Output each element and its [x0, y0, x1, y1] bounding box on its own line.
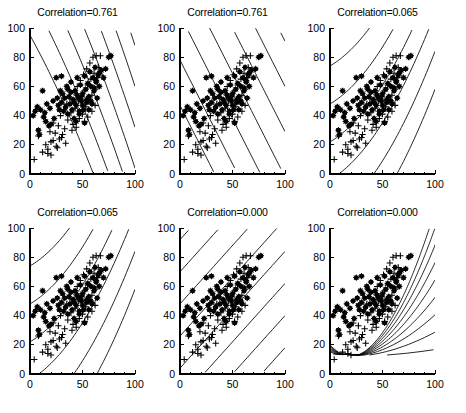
- panel-plot: 020406080100050100: [300, 20, 455, 200]
- panel-plot: 020406080100050100: [300, 220, 455, 400]
- x-tick-label: 50: [377, 378, 389, 390]
- y-tick-label: 20: [163, 338, 175, 350]
- y-tick-label: 60: [13, 80, 25, 92]
- scatter-panel: Correlation=0.065020406080100050100: [300, 0, 455, 200]
- x-tick-label: 0: [327, 378, 333, 390]
- x-tick-label: 50: [227, 178, 239, 190]
- y-tick-label: 100: [7, 222, 25, 234]
- y-tick-label: 20: [313, 338, 325, 350]
- figure-canvas: Correlation=0.761020406080100050100Corre…: [0, 0, 466, 413]
- y-tick-label: 40: [163, 109, 175, 121]
- y-tick-label: 40: [13, 309, 25, 321]
- y-tick-label: 20: [313, 138, 325, 150]
- y-tick-label: 0: [169, 168, 175, 180]
- scatter-panel: Correlation=0.065020406080100050100: [0, 200, 155, 400]
- x-tick-label: 50: [77, 178, 89, 190]
- x-tick-label: 50: [227, 378, 239, 390]
- panel-title: Correlation=0.065: [300, 6, 455, 18]
- x-tick-label: 100: [126, 178, 144, 190]
- data-points: [180, 253, 264, 363]
- x-tick-label: 0: [177, 378, 183, 390]
- data-points: [180, 53, 264, 163]
- panel-plot: 020406080100050100: [150, 20, 305, 200]
- panel-title: Correlation=0.761: [150, 6, 305, 18]
- y-tick-label: 80: [163, 51, 175, 63]
- x-tick-label: 0: [27, 378, 33, 390]
- x-tick-label: 50: [77, 378, 89, 390]
- y-tick-label: 40: [313, 109, 325, 121]
- y-tick-label: 20: [13, 138, 25, 150]
- panel-title: Correlation=0.000: [300, 206, 455, 218]
- y-tick-label: 0: [19, 368, 25, 380]
- y-tick-label: 100: [157, 222, 175, 234]
- y-tick-label: 20: [13, 338, 25, 350]
- x-tick-label: 100: [426, 178, 444, 190]
- y-tick-label: 40: [13, 109, 25, 121]
- y-tick-label: 100: [157, 22, 175, 34]
- y-tick-label: 0: [319, 168, 325, 180]
- y-tick-label: 0: [19, 168, 25, 180]
- data-points: [330, 53, 414, 163]
- scatter-panel: Correlation=0.000020406080100050100: [300, 200, 455, 400]
- y-tick-label: 0: [169, 368, 175, 380]
- x-tick-label: 100: [126, 378, 144, 390]
- y-tick-label: 80: [13, 51, 25, 63]
- panel-plot: 020406080100050100: [0, 220, 155, 400]
- data-points: [30, 53, 114, 163]
- y-tick-label: 20: [163, 138, 175, 150]
- y-tick-label: 60: [13, 280, 25, 292]
- y-tick-label: 80: [313, 251, 325, 263]
- scatter-panel: Correlation=0.000020406080100050100: [150, 200, 305, 400]
- scatter-panel: Correlation=0.761020406080100050100: [0, 0, 155, 200]
- x-tick-label: 0: [177, 178, 183, 190]
- x-tick-label: 0: [27, 178, 33, 190]
- x-tick-label: 100: [276, 178, 294, 190]
- y-tick-label: 60: [313, 280, 325, 292]
- y-tick-label: 40: [163, 309, 175, 321]
- y-tick-label: 60: [313, 80, 325, 92]
- y-tick-label: 0: [319, 368, 325, 380]
- x-tick-label: 100: [276, 378, 294, 390]
- data-points: [30, 253, 114, 363]
- y-tick-label: 40: [313, 309, 325, 321]
- panel-title: Correlation=0.065: [0, 206, 155, 218]
- y-tick-label: 100: [307, 22, 325, 34]
- x-tick-label: 50: [377, 178, 389, 190]
- x-tick-label: 0: [327, 178, 333, 190]
- x-tick-label: 100: [426, 378, 444, 390]
- panel-plot: 020406080100050100: [150, 220, 305, 400]
- y-tick-label: 60: [163, 80, 175, 92]
- panel-title: Correlation=0.761: [0, 6, 155, 18]
- scatter-panel: Correlation=0.761020406080100050100: [150, 0, 305, 200]
- panel-plot: 020406080100050100: [0, 20, 155, 200]
- y-tick-label: 100: [307, 222, 325, 234]
- y-tick-label: 100: [7, 22, 25, 34]
- y-tick-label: 80: [163, 251, 175, 263]
- y-tick-label: 80: [313, 51, 325, 63]
- y-tick-label: 60: [163, 280, 175, 292]
- panel-title: Correlation=0.000: [150, 206, 305, 218]
- y-tick-label: 80: [13, 251, 25, 263]
